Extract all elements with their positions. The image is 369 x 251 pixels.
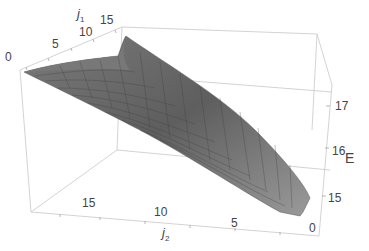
j2-axis-title: j2 (162, 226, 169, 243)
e-axis-title: E (345, 151, 354, 165)
j1-tick-15: 15 (100, 14, 113, 26)
j1-tick-10: 10 (79, 26, 92, 38)
e-tick-16: 16 (332, 145, 345, 157)
j1-axis-title: j1 (77, 7, 84, 24)
j2-tick-15: 15 (82, 197, 95, 209)
j2-tick-10: 10 (154, 206, 167, 218)
j1-tick-0: 0 (5, 51, 12, 63)
j2-tick-0: 0 (309, 222, 316, 234)
e-tick-17: 17 (335, 100, 348, 112)
j1-tick-5: 5 (52, 38, 59, 50)
j2-tick-5: 5 (231, 217, 238, 229)
energy-surface (24, 36, 310, 216)
e-tick-15: 15 (328, 192, 341, 204)
